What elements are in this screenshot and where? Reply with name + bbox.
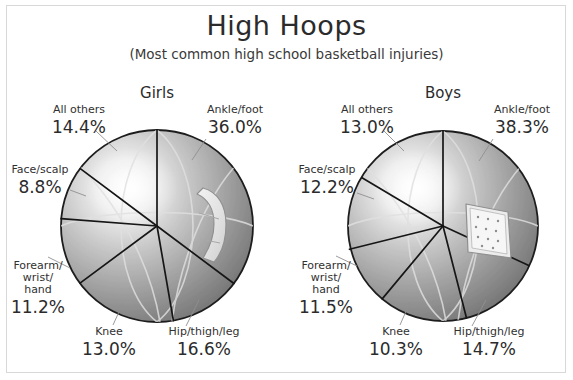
boys-label-forearm-pct: 11.5% [290, 298, 362, 316]
girls-label-ankle-foot-pct: 36.0% [190, 118, 280, 136]
boys-label-hip-thigh-pct: 14.7% [440, 340, 538, 358]
girls-label-all-others: All others 14.4% [34, 104, 124, 136]
girls-label-forearm: Forearm/ wrist/ hand 11.2% [2, 260, 74, 316]
boys-label-forearm-cat: Forearm/ wrist/ hand [290, 260, 362, 296]
girls-label-knee-pct: 13.0% [73, 340, 145, 358]
girls-label-hip-thigh-cat: Hip/thigh/leg [155, 326, 253, 338]
boys-label-hip-thigh: Hip/thigh/leg 14.7% [440, 326, 538, 358]
girls-label-forearm-pct: 11.2% [2, 298, 74, 316]
girls-label-face-scalp: Face/scalp 8.8% [3, 164, 77, 196]
infographic-poster: High Hoops (Most common high school bask… [0, 0, 573, 380]
girls-label-forearm-cat: Forearm/ wrist/ hand [2, 260, 74, 296]
boys-label-ankle-foot-pct: 38.3% [477, 118, 567, 136]
boys-label-all-others-pct: 13.0% [322, 118, 412, 136]
boys-label-all-others: All others 13.0% [322, 104, 412, 136]
girls-label-knee: Knee 13.0% [73, 326, 145, 358]
girls-label-all-others-pct: 14.4% [34, 118, 124, 136]
boys-label-face-scalp-cat: Face/scalp [290, 164, 364, 176]
girls-label-face-scalp-pct: 8.8% [3, 178, 77, 196]
girls-label-ankle-foot-cat: Ankle/foot [190, 104, 280, 116]
ankle-pad-icon [466, 204, 511, 258]
girls-label-ankle-foot: Ankle/foot 36.0% [190, 104, 280, 136]
girls-label-face-scalp-cat: Face/scalp [3, 164, 77, 176]
boys-label-knee-pct: 10.3% [360, 340, 432, 358]
boys-ball-highlight [373, 149, 463, 227]
charts-canvas [0, 0, 573, 380]
boys-label-face-scalp-pct: 12.2% [290, 178, 364, 196]
girls-label-all-others-cat: All others [34, 104, 124, 116]
boys-label-face-scalp: Face/scalp 12.2% [290, 164, 364, 196]
boys-label-all-others-cat: All others [322, 104, 412, 116]
boys-label-knee-cat: Knee [360, 326, 432, 338]
pie-chart-boys [336, 131, 538, 326]
boys-label-forearm: Forearm/ wrist/ hand 11.5% [290, 260, 362, 316]
girls-label-hip-thigh: Hip/thigh/leg 16.6% [155, 326, 253, 358]
boys-label-ankle-foot-cat: Ankle/foot [477, 104, 567, 116]
boys-label-ankle-foot: Ankle/foot 38.3% [477, 104, 567, 136]
boys-label-hip-thigh-cat: Hip/thigh/leg [440, 326, 538, 338]
pie-chart-girls [48, 130, 253, 326]
boys-label-knee: Knee 10.3% [360, 326, 432, 358]
girls-label-knee-cat: Knee [73, 326, 145, 338]
girls-label-hip-thigh-pct: 16.6% [155, 340, 253, 358]
